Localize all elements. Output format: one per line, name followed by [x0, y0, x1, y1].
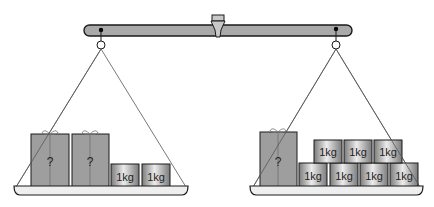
ribbon-bow-icon — [270, 129, 286, 133]
mystery-box: ? — [260, 129, 297, 187]
weight-1kg: 1kg — [374, 140, 402, 163]
right-pan — [250, 186, 423, 195]
mystery-box: ? — [31, 131, 69, 187]
weight-1kg: 1kg — [344, 140, 372, 163]
weight-1kg: 1kg — [142, 164, 170, 187]
weight-label: 1kg — [335, 170, 353, 182]
left-pan-contents: ? ? 1kg 1kg — [31, 131, 170, 187]
weight-1kg: 1kg — [330, 163, 358, 187]
left-pan — [14, 186, 188, 195]
weight-1kg: 1kg — [299, 163, 327, 187]
mystery-box-label: ? — [47, 155, 54, 169]
weight-1kg: 1kg — [360, 163, 388, 187]
weight-label: 1kg — [365, 170, 383, 182]
weight-1kg: 1kg — [111, 164, 139, 187]
balance-scale-diagram: ? ? 1kg 1kg ? 1kg — [0, 0, 434, 207]
weight-1kg: 1kg — [390, 163, 418, 187]
weight-label: 1kg — [304, 170, 322, 182]
weight-label: 1kg — [147, 171, 165, 183]
weight-label: 1kg — [116, 171, 134, 183]
weight-label: 1kg — [379, 146, 397, 158]
ribbon-bow-icon — [82, 131, 98, 135]
right-pan-contents: ? 1kg 1kg 1kg 1kg 1kg 1kg 1kg — [253, 49, 420, 187]
mystery-box-label: ? — [87, 155, 94, 169]
weight-label: 1kg — [349, 146, 367, 158]
mystery-box: ? — [72, 131, 109, 187]
weight-1kg: 1kg — [314, 140, 342, 163]
mystery-box-label: ? — [275, 155, 282, 169]
weight-label: 1kg — [319, 146, 337, 158]
weight-label: 1kg — [395, 170, 413, 182]
